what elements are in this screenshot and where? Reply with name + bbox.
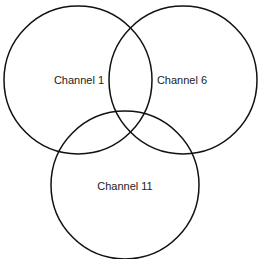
label-channel-11: Channel 11 bbox=[97, 180, 152, 192]
label-channel-6: Channel 6 bbox=[157, 74, 207, 86]
label-channel-1: Channel 1 bbox=[54, 74, 104, 86]
venn-diagram: Channel 1 Channel 6 Channel 11 bbox=[0, 0, 258, 259]
